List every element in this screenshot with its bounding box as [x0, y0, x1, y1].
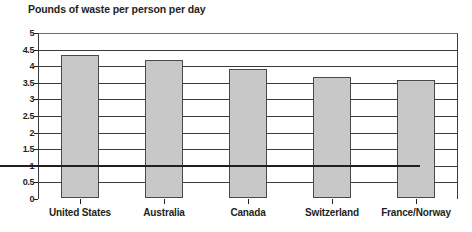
x-tick-mark [416, 199, 417, 204]
grid-line [38, 66, 458, 67]
x-tick-mark [248, 199, 249, 204]
y-tick-label: 0 [2, 194, 34, 204]
bar-chart: Pounds of waste per person per day 00.51… [0, 0, 472, 232]
x-axis: United StatesAustraliaCanadaSwitzerlandF… [38, 199, 458, 229]
bar-united-states [61, 55, 99, 198]
grid-line [38, 50, 458, 51]
chart-title: Pounds of waste per person per day [28, 3, 205, 15]
x-tick-mark [80, 199, 81, 204]
y-tick-label: 2.5 [2, 111, 34, 121]
plot-area [38, 33, 458, 199]
y-tick-label: 2 [2, 128, 34, 138]
x-axis-baseline [0, 165, 420, 167]
x-tick-mark [332, 199, 333, 204]
y-tick-label: 4 [2, 61, 34, 71]
y-tick-label: 4.5 [2, 45, 34, 55]
x-tick-mark [164, 199, 165, 204]
y-tick-label: 3 [2, 94, 34, 104]
bar-france-norway [397, 80, 435, 198]
y-tick-label: 0.5 [2, 177, 34, 187]
bar-canada [229, 69, 267, 198]
bar-switzerland [313, 77, 351, 198]
y-tick-label: 1.5 [2, 144, 34, 154]
x-tick-label: France/Norway [356, 207, 472, 218]
y-tick-label: 3.5 [2, 78, 34, 88]
grid-line [38, 33, 458, 34]
y-axis: 00.511.522.533.544.55 [0, 33, 34, 199]
y-tick-label: 5 [2, 28, 34, 38]
bar-australia [145, 60, 183, 198]
